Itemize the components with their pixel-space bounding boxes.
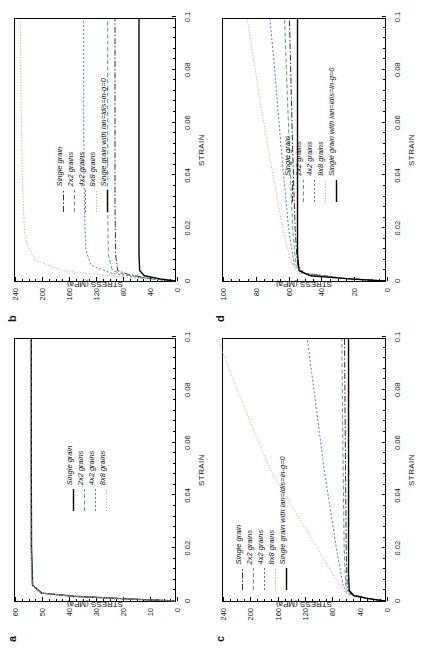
panel-d: d 00.020.040.060.080.1020406080100STRAIN… bbox=[214, 10, 420, 322]
series-line bbox=[115, 19, 175, 281]
y-tick-major bbox=[177, 598, 178, 602]
panel-b: b 00.020.040.060.080.104080120160200240S… bbox=[6, 10, 210, 322]
x-tick-label: 0.08 bbox=[183, 63, 192, 78]
legend-item: 2x2 grains bbox=[293, 68, 304, 202]
x-axis-title: STRAIN bbox=[197, 134, 206, 166]
legend-label: 4x2 grains bbox=[256, 530, 265, 565]
y-tick-label: 0 bbox=[383, 288, 392, 292]
x-tick-label: 0.04 bbox=[183, 488, 192, 503]
panel-b-axes: 00.020.040.060.080.104080120160200240STR… bbox=[14, 18, 176, 282]
panel-a-plot-area: 00.020.040.060.080.10102030405060STRAINS… bbox=[14, 338, 176, 602]
y-tick-label: 10 bbox=[146, 608, 155, 616]
legend-label: 2x2 grains bbox=[294, 141, 303, 176]
legend-item: 8x8 grains bbox=[87, 78, 98, 212]
legend-item: Single grain with lan=ldis=ln-g=0 bbox=[326, 68, 337, 202]
legend-label: Single grain with lan=ldis=ln-g=0 bbox=[278, 456, 287, 564]
legend: Single grain2x2 grains4x2 grains8x8 grai… bbox=[64, 446, 108, 512]
y-tick-major bbox=[177, 278, 178, 282]
y-tick-label: 200 bbox=[38, 288, 47, 301]
legend-label: Single grain bbox=[283, 136, 292, 176]
y-tick-major bbox=[387, 278, 388, 282]
x-axis-title: STRAIN bbox=[407, 134, 416, 166]
legend-item: Single grain bbox=[64, 446, 75, 512]
legend-label: 2x2 grains bbox=[66, 152, 75, 187]
legend-label: 4x2 grains bbox=[87, 451, 96, 486]
y-tick-major bbox=[387, 598, 388, 602]
y-tick-label: 40 bbox=[355, 608, 364, 616]
legend-item: 2x2 grains bbox=[244, 456, 255, 590]
panel-c-axes: 00.020.040.060.080.104080120160200240STR… bbox=[222, 338, 386, 602]
panel-b-plot-area: 00.020.040.060.080.104080120160200240STR… bbox=[14, 18, 176, 282]
panel-c-plot-area: 00.020.040.060.080.104080120160200240STR… bbox=[222, 338, 386, 602]
series-line bbox=[139, 19, 175, 281]
x-axis-title: STRAIN bbox=[197, 454, 206, 486]
x-tick-major bbox=[172, 16, 176, 17]
y-axis-title: STRESS (MPa) bbox=[276, 280, 332, 289]
y-tick-label: 0 bbox=[173, 288, 182, 292]
y-tick-label: 20 bbox=[350, 288, 359, 296]
x-tick-label: 0.02 bbox=[183, 221, 192, 236]
x-tick-label: 0.06 bbox=[393, 115, 402, 130]
y-tick-label: 120 bbox=[301, 608, 310, 621]
stress-strain-figure: a 00.020.040.060.080.10102030405060STRAI… bbox=[0, 0, 425, 650]
x-tick-label: 0 bbox=[183, 279, 192, 283]
legend-label: 2x2 grains bbox=[76, 451, 85, 486]
x-tick-label: 0.04 bbox=[393, 488, 402, 503]
y-tick-label: 80 bbox=[251, 288, 260, 296]
figure-rotation-container: a 00.020.040.060.080.10102030405060STRAI… bbox=[0, 0, 425, 650]
y-axis-title: STRESS (MPa) bbox=[67, 600, 123, 609]
x-tick-label: 0.1 bbox=[183, 332, 192, 342]
y-tick-label: 0 bbox=[173, 608, 182, 612]
legend-item: 2x2 grains bbox=[75, 446, 86, 512]
legend-label: 8x8 grains bbox=[98, 451, 107, 486]
y-tick-label: 0 bbox=[383, 608, 392, 612]
legend-item: Single grain with lan=ldis=ln-g=0 bbox=[98, 78, 109, 212]
legend-label: 4x2 grains bbox=[77, 152, 86, 187]
y-tick-label: 50 bbox=[38, 608, 47, 616]
x-tick-label: 0.1 bbox=[393, 12, 402, 22]
panel-d-label: d bbox=[214, 315, 226, 322]
panel-a: a 00.020.040.060.080.10102030405060STRAI… bbox=[6, 330, 210, 642]
x-tick-label: 0.06 bbox=[183, 115, 192, 130]
x-tick-major bbox=[382, 16, 386, 17]
legend-item: Single grain bbox=[233, 456, 244, 590]
panel-b-label: b bbox=[6, 315, 18, 322]
legend-label: 8x8 grains bbox=[88, 152, 97, 187]
legend-item: 4x2 grains bbox=[255, 456, 266, 590]
x-tick-label: 0.06 bbox=[393, 435, 402, 450]
x-tick-label: 0.02 bbox=[393, 221, 402, 236]
x-tick-major bbox=[382, 336, 386, 337]
legend-item: 4x2 grains bbox=[304, 68, 315, 202]
legend-label: Single grain bbox=[65, 446, 74, 486]
y-axis-title: STRESS (MPa) bbox=[67, 280, 123, 289]
y-tick-label: 160 bbox=[65, 288, 74, 301]
x-tick-label: 0.08 bbox=[393, 63, 402, 78]
y-tick-label: 100 bbox=[219, 288, 228, 301]
legend-item: Single grain bbox=[54, 78, 65, 212]
legend-label: Single grain with lan=ldis=ln-g=0 bbox=[327, 68, 336, 176]
x-tick-label: 0.06 bbox=[183, 435, 192, 450]
panel-d-axes: 00.020.040.060.080.1020406080100STRAINST… bbox=[222, 18, 386, 282]
x-tick-label: 0.02 bbox=[393, 541, 402, 556]
x-tick-label: 0 bbox=[393, 599, 402, 603]
x-tick-label: 0.1 bbox=[393, 332, 402, 342]
legend: Single grain2x2 grains4x2 grains8x8 grai… bbox=[282, 68, 337, 202]
panel-a-axes: 00.020.040.060.080.10102030405060STRAINS… bbox=[14, 338, 176, 602]
legend-label: Single grain bbox=[234, 525, 243, 565]
x-tick-label: 0.1 bbox=[183, 12, 192, 22]
legend-item: 8x8 grains bbox=[97, 446, 108, 512]
legend-item: Single grain with lan=ldis=ln-g=0 bbox=[277, 456, 288, 590]
legend-label: 8x8 grains bbox=[316, 141, 325, 176]
legend-item: 2x2 grains bbox=[65, 78, 76, 212]
panel-c: c 00.020.040.060.080.104080120160200240S… bbox=[214, 330, 420, 642]
panel-c-label: c bbox=[214, 636, 226, 642]
x-tick-label: 0.08 bbox=[393, 383, 402, 398]
series-line bbox=[349, 339, 385, 601]
x-tick-label: 0.04 bbox=[183, 168, 192, 183]
x-axis-title: STRAIN bbox=[407, 454, 416, 486]
legend-label: Single grain bbox=[55, 147, 64, 187]
legend: Single grain2x2 grains4x2 grains8x8 grai… bbox=[54, 78, 109, 212]
panel-d-plot-area: 00.020.040.060.080.1020406080100STRAINST… bbox=[222, 18, 386, 282]
y-tick-label: 120 bbox=[92, 288, 101, 301]
y-tick-label: 60 bbox=[11, 608, 20, 616]
